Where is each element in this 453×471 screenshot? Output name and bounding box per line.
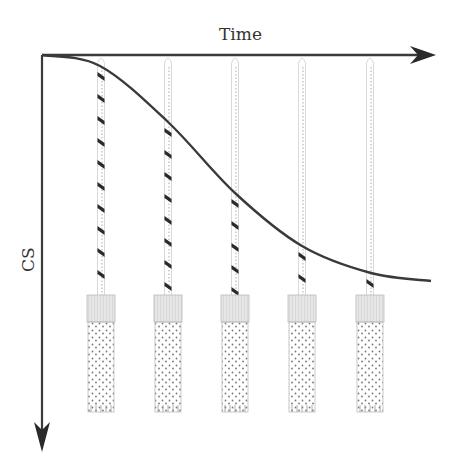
rod-stripe: [98, 94, 105, 103]
tube-cap: [154, 295, 182, 322]
rod-stripe: [98, 72, 105, 81]
tube-body: [289, 322, 315, 412]
tube-body: [155, 322, 181, 412]
rod-stripe: [232, 199, 239, 208]
rod-stripe: [165, 260, 172, 269]
sample-column: [288, 58, 316, 412]
rod-stripe: [165, 238, 172, 247]
rod-stripe: [98, 160, 105, 169]
rod-outline: [367, 58, 374, 295]
sample-column: [356, 58, 384, 412]
rod-stripe: [165, 172, 172, 181]
rod-stripe: [98, 226, 105, 235]
rod-stripe: [165, 150, 172, 159]
rod-stripe: [165, 194, 172, 203]
rod-stripe: [98, 182, 105, 191]
rod-stripe: [98, 138, 105, 147]
tube-body: [222, 322, 248, 412]
tube-body: [357, 322, 383, 412]
tube-cap: [288, 295, 316, 322]
time-axis-label: Time: [219, 24, 262, 44]
tube-cap: [356, 295, 384, 322]
rod-stripe: [165, 216, 172, 225]
tube-cap: [87, 295, 115, 322]
rod-stripe: [165, 128, 172, 137]
rod-stripe: [299, 274, 306, 283]
rod-stripe: [232, 265, 239, 274]
rod-stripe: [98, 270, 105, 279]
tube-body: [88, 322, 114, 412]
tube-cap: [221, 295, 249, 322]
sample-column: [221, 58, 249, 412]
rod-stripe: [98, 248, 105, 257]
sample-column: [87, 58, 115, 412]
cs-time-diagram: Time CS: [0, 0, 453, 471]
rod-stripe: [98, 116, 105, 125]
rod-stripe: [367, 279, 374, 288]
rod-stripe: [299, 252, 306, 261]
rod-stripe: [165, 282, 172, 291]
rod-stripe: [98, 204, 105, 213]
rod-outline: [232, 58, 239, 295]
sample-columns: [87, 58, 384, 412]
cs-axis-label: CS: [18, 247, 38, 272]
sample-column: [154, 58, 182, 412]
rod-outline: [98, 58, 105, 295]
rod-stripe: [232, 243, 239, 252]
rod-stripe: [232, 221, 239, 230]
